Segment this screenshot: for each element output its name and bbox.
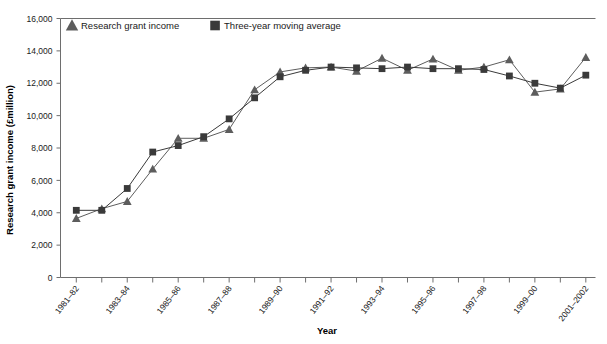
data-point-square bbox=[404, 64, 411, 71]
data-point-square bbox=[506, 73, 513, 80]
data-point-square bbox=[379, 65, 386, 72]
x-tick-label: 2001–2002 bbox=[556, 283, 590, 323]
y-tick-label: 12,000 bbox=[27, 78, 53, 88]
data-point-square bbox=[277, 73, 284, 80]
data-point-square bbox=[531, 80, 538, 87]
data-point-square bbox=[175, 142, 182, 149]
legend-item-2: Three-year moving average bbox=[210, 20, 341, 31]
data-point-square bbox=[149, 149, 156, 156]
y-tick-label: 8,000 bbox=[31, 143, 53, 153]
x-tick-label: 1999–00 bbox=[511, 283, 539, 315]
data-point-square bbox=[226, 115, 233, 122]
data-point-square bbox=[328, 64, 335, 71]
legend-item-1: Research grant income bbox=[66, 19, 179, 31]
data-point-triangle bbox=[429, 55, 438, 63]
x-tick-label: 1997–98 bbox=[460, 283, 488, 315]
legend-square-icon bbox=[210, 21, 220, 31]
chart-frame bbox=[61, 19, 596, 278]
x-tick-label: 1991–92 bbox=[307, 283, 335, 315]
x-tick-label: 1995–96 bbox=[409, 283, 437, 315]
research-grant-income-line-chart: 02,0004,0006,0008,00010,00012,00014,0001… bbox=[0, 0, 607, 344]
x-tick-label: 1989–90 bbox=[256, 283, 284, 315]
x-tick-label: 1981–82 bbox=[53, 283, 81, 315]
data-point-triangle bbox=[505, 55, 514, 63]
y-tick-label: 14,000 bbox=[27, 46, 53, 56]
data-point-square bbox=[73, 207, 80, 214]
chart-legend: Research grant incomeThree-year moving a… bbox=[66, 19, 341, 31]
data-point-square bbox=[582, 72, 589, 79]
legend-label: Three-year moving average bbox=[224, 20, 341, 31]
data-point-square bbox=[353, 64, 360, 71]
data-point-square bbox=[200, 133, 207, 140]
data-point-triangle bbox=[250, 85, 259, 93]
data-point-square bbox=[124, 185, 131, 192]
y-tick-label: 2,000 bbox=[31, 240, 53, 250]
y-tick-label: 6,000 bbox=[31, 176, 53, 186]
data-point-triangle bbox=[225, 125, 234, 133]
data-point-triangle bbox=[581, 53, 590, 61]
x-axis-title: Year bbox=[317, 325, 337, 336]
y-tick-label: 0 bbox=[48, 273, 53, 283]
data-point-triangle bbox=[378, 54, 387, 62]
data-point-square bbox=[98, 207, 105, 214]
data-series-group bbox=[72, 53, 590, 222]
x-tick-label: 1987–88 bbox=[205, 283, 233, 315]
y-axis-ticks: 02,0004,0006,0008,00010,00012,00014,0001… bbox=[27, 14, 61, 283]
data-point-square bbox=[455, 65, 462, 72]
x-tick-label: 1993–94 bbox=[358, 283, 386, 315]
data-point-square bbox=[251, 94, 258, 101]
data-point-triangle bbox=[72, 214, 81, 222]
x-axis-ticks: 1981–821983–841985–861987–881989–901991–… bbox=[53, 278, 591, 324]
x-tick-label: 1983–84 bbox=[104, 283, 132, 315]
data-point-square bbox=[557, 85, 564, 92]
data-point-square bbox=[481, 66, 488, 73]
y-axis-title: Research grant income (£million) bbox=[4, 85, 15, 235]
y-tick-label: 10,000 bbox=[27, 111, 53, 121]
data-point-square bbox=[302, 67, 309, 74]
y-tick-label: 4,000 bbox=[31, 208, 53, 218]
chart-container: 02,0004,0006,0008,00010,00012,00014,0001… bbox=[0, 0, 607, 344]
legend-triangle-icon bbox=[66, 19, 78, 30]
legend-label: Research grant income bbox=[81, 20, 179, 31]
x-tick-label: 1985–86 bbox=[155, 283, 183, 315]
series-square bbox=[73, 64, 589, 214]
y-tick-label: 16,000 bbox=[27, 14, 53, 24]
data-point-square bbox=[430, 65, 437, 72]
